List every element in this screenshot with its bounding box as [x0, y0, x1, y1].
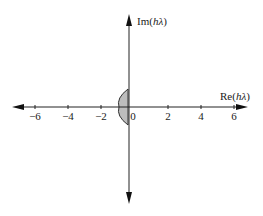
x-tick-label: 2	[165, 110, 171, 122]
imag-axis-up-arrow-icon	[126, 14, 132, 26]
x-tick-label: −2	[95, 110, 107, 122]
x-tick-label: −6	[29, 110, 41, 122]
stability-region-diagram: −6 −4 −2 0 2 4 6 Re(hλ) Im(hλ)	[0, 0, 263, 216]
real-axis-right-arrow-icon	[236, 104, 248, 110]
real-axis-label: Re(hλ)	[220, 90, 250, 103]
x-tick-label: 0	[130, 110, 136, 122]
x-tick-label: −4	[62, 110, 74, 122]
real-axis-left-arrow-icon	[12, 104, 24, 110]
imag-axis-down-arrow-icon	[126, 192, 132, 204]
x-tick-label: 6	[231, 110, 237, 122]
x-tick-label: 4	[198, 110, 204, 122]
imag-axis-label: Im(hλ)	[137, 15, 167, 28]
